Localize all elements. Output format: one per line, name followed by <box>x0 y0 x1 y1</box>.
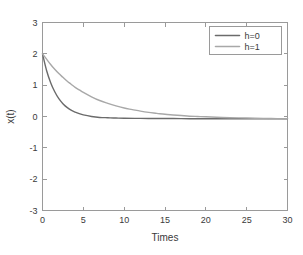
x-axis-title: Times <box>152 232 179 243</box>
x-tick-label: 20 <box>201 215 211 225</box>
y-tick-label: -2 <box>29 174 37 184</box>
x-tick-label: 0 <box>40 215 45 225</box>
y-tick-label: 2 <box>32 49 37 59</box>
x-tick-label: 25 <box>242 215 252 225</box>
line-chart: 051015202530 3210-1-2-3 Times x(t) h=0h=… <box>0 0 303 255</box>
legend-label: h=1 <box>245 42 260 52</box>
figure-container: 051015202530 3210-1-2-3 Times x(t) h=0h=… <box>0 0 303 255</box>
y-tick-label: -1 <box>29 143 37 153</box>
x-tick-label: 5 <box>81 215 86 225</box>
x-tick-label: 10 <box>119 215 129 225</box>
x-tick-label: 15 <box>160 215 170 225</box>
y-tick-label: 1 <box>32 80 37 90</box>
y-axis-title: x(t) <box>5 109 16 123</box>
x-tick-label: 30 <box>282 215 292 225</box>
y-tick-label: -3 <box>29 206 37 216</box>
legend-label: h=0 <box>245 31 260 41</box>
y-tick-label: 3 <box>32 18 37 28</box>
y-tick-label: 0 <box>32 112 37 122</box>
chart-legend: h=0h=1 <box>210 27 282 55</box>
